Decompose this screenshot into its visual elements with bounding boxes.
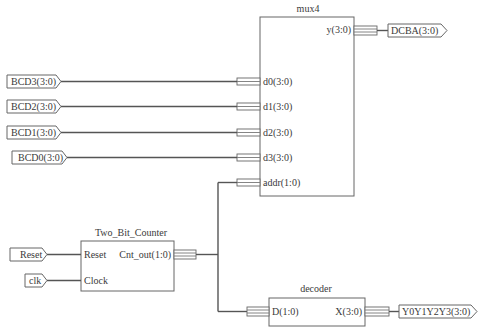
output-port-dcba[interactable]: DCBA(3:0) bbox=[388, 24, 447, 37]
input-port-bcd2[interactable]: BCD2(3:0) bbox=[7, 100, 61, 113]
mux4-port-d2: d2(3:0) bbox=[263, 127, 292, 139]
input-port-bcd0-label: BCD0(3:0) bbox=[18, 152, 63, 164]
wire-cnt-bus bbox=[196, 183, 247, 312]
decoder-port-x: X(3:0) bbox=[335, 306, 362, 318]
counter-title: Two_Bit_Counter bbox=[95, 227, 168, 238]
mux4-port-addr: addr(1:0) bbox=[263, 177, 300, 189]
mux4-port-d0: d0(3:0) bbox=[263, 76, 292, 88]
output-port-y0y1y2y3-label: Y0Y1Y2Y3(3:0) bbox=[402, 306, 470, 318]
mux4-title: mux4 bbox=[297, 3, 320, 14]
output-port-y0y1y2y3[interactable]: Y0Y1Y2Y3(3:0) bbox=[399, 305, 477, 318]
counter-output-stub bbox=[174, 250, 196, 259]
decoder-port-d: D(1:0) bbox=[272, 306, 299, 318]
decoder-title: decoder bbox=[300, 283, 332, 294]
mux4-port-y: y(3:0) bbox=[327, 24, 351, 36]
mux4-block[interactable]: mux4 y(3:0) d0(3:0) d1(3:0) d2(3:0) d3(3… bbox=[260, 3, 354, 196]
input-port-clk[interactable]: clk bbox=[25, 274, 47, 287]
input-port-bcd1-label: BCD1(3:0) bbox=[11, 127, 56, 139]
input-port-bcd0[interactable]: BCD0(3:0) bbox=[12, 151, 67, 164]
decoder-block[interactable]: decoder D(1:0) X(3:0) bbox=[269, 283, 365, 326]
mux4-port-d3: d3(3:0) bbox=[263, 152, 292, 164]
input-port-bcd1[interactable]: BCD1(3:0) bbox=[7, 126, 61, 139]
output-port-dcba-label: DCBA(3:0) bbox=[391, 25, 438, 37]
input-port-bcd3[interactable]: BCD3(3:0) bbox=[7, 75, 61, 88]
input-port-reset[interactable]: Reset bbox=[10, 248, 47, 261]
input-port-bcd2-label: BCD2(3:0) bbox=[11, 101, 56, 113]
mux4-output-stub bbox=[354, 26, 388, 35]
schematic-canvas: mux4 y(3:0) d0(3:0) d1(3:0) d2(3:0) d3(3… bbox=[0, 0, 486, 331]
counter-port-reset: Reset bbox=[84, 249, 106, 260]
mux4-port-d1: d1(3:0) bbox=[263, 101, 292, 113]
counter-block[interactable]: Two_Bit_Counter Reset Clock Cnt_out(1:0) bbox=[81, 227, 174, 291]
input-port-reset-label: Reset bbox=[20, 249, 42, 260]
counter-port-clock: Clock bbox=[84, 275, 108, 286]
counter-port-cnt-out: Cnt_out(1:0) bbox=[119, 249, 171, 261]
input-port-clk-label: clk bbox=[29, 275, 41, 286]
mux4-input-stubs bbox=[237, 78, 260, 186]
input-port-bcd3-label: BCD3(3:0) bbox=[11, 76, 56, 88]
